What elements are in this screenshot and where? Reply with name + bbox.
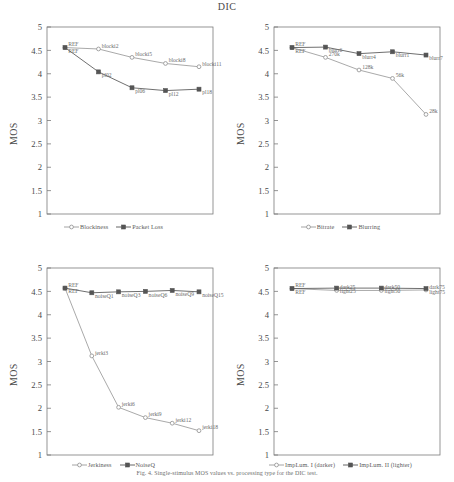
legend-circle-marker-icon (64, 223, 79, 231)
legend-circle-marker-icon (72, 461, 87, 469)
point-label: jerki12 (174, 417, 191, 423)
point-label: 28k (429, 108, 438, 114)
y-tick-label: 1 (38, 450, 42, 460)
y-tick-label: 2.5 (31, 380, 42, 390)
legend-bottom-right: ImpLum. I (darker)ImpLum. II (lighter) (227, 460, 454, 469)
legend-square-marker-icon (120, 461, 135, 469)
point-label: REF (295, 48, 305, 54)
legend-item-noiseq[interactable]: NoiseQ (120, 460, 156, 469)
y-tick-label: 4 (38, 310, 43, 320)
figure-caption: Fig. 4. Single-stimulus MOS values vs. p… (0, 470, 454, 476)
point-label: REF (68, 41, 78, 47)
point-label: blurr4 (362, 54, 376, 60)
legend-label: ImpLum. II (lighter) (359, 461, 412, 468)
y-tick-label: 4.5 (31, 46, 42, 56)
point-label: noiseQ1 (95, 293, 114, 299)
y-tick-label: 5 (265, 263, 269, 273)
legend-item-bitrate[interactable]: Bitrate (301, 222, 335, 231)
y-tick-label: 5 (265, 22, 269, 32)
legend-label: Packet Loss (132, 223, 163, 230)
y-tick-label: 3.5 (258, 92, 269, 102)
y-tick-label: 3 (265, 357, 269, 367)
legend-square-marker-icon (343, 461, 358, 469)
y-tick-label: 4 (265, 69, 270, 79)
y-tick-label: 3.5 (31, 92, 42, 102)
point-label: noiseQ3 (122, 292, 141, 298)
point-label: blocki8 (169, 57, 186, 63)
legend-label: Blockiness (80, 223, 108, 230)
y-tick-label: 1 (265, 209, 269, 219)
y-tick-label: 3.5 (31, 333, 42, 343)
y-tick-label: 1.5 (258, 427, 269, 437)
y-tick-label: 4.5 (31, 287, 42, 297)
point-label: pl02 (102, 72, 112, 78)
legend-item-blockiness[interactable]: Blockiness (64, 222, 108, 231)
y-tick-label: 1.5 (31, 427, 42, 437)
legend-item-blurring[interactable]: Blurring (342, 222, 380, 231)
legend-label: Bitrate (317, 223, 335, 230)
y-tick-label: 3 (38, 357, 42, 367)
y-tick-label: 4 (265, 310, 270, 320)
point-label: noiseQ6 (149, 292, 168, 298)
series-jerkiness: REFjerki3jerki6jerki9jerki12jerki18 (63, 282, 218, 433)
y-tick-label: 1.5 (258, 186, 269, 196)
y-tick-label: 3.5 (258, 333, 269, 343)
legend-top-left: BlockinessPacket Loss (0, 222, 227, 231)
point-label: REF (68, 282, 78, 288)
y-tick-label: 2.5 (258, 380, 269, 390)
legend-item-packet-loss[interactable]: Packet Loss (116, 222, 163, 231)
series-blurring: REFblurr6blurr4blurr1blurr7 (290, 45, 443, 61)
point-label: blocki5 (135, 51, 152, 57)
point-label: REF (295, 41, 305, 47)
point-label: jerki18 (201, 424, 218, 430)
point-label: blurr6 (329, 47, 343, 53)
point-label: jerki6 (121, 401, 135, 407)
legend-label: Jerkiness (88, 461, 112, 468)
point-label: REF (68, 48, 78, 54)
y-tick-label: 2 (265, 162, 269, 172)
point-label: REF (295, 289, 305, 295)
point-label: light75 (429, 289, 445, 295)
legend-top-right: BitrateBlurring (227, 222, 454, 231)
y-tick-label: 1.5 (31, 186, 42, 196)
y-tick-label: 5 (38, 22, 42, 32)
y-tick-label: 4.5 (258, 46, 269, 56)
point-label: blurr1 (396, 52, 410, 58)
series-blockiness: REFblocki2blocki5blocki8blocki11 (63, 41, 222, 68)
point-label: blurr7 (429, 55, 443, 61)
point-label: noiseQ15 (202, 292, 224, 298)
plot-area-bottom-right: 11.522.533.544.55REFdark25dark50dark75RE… (227, 241, 454, 466)
y-tick-label: 2 (38, 403, 42, 413)
chart-panel-top-left: MOS 11.522.533.544.55REFblocki2blocki5bl… (0, 0, 227, 241)
legend-item-implum-ii-lighter[interactable]: ImpLum. II (lighter) (343, 460, 412, 469)
point-label: jerki9 (148, 411, 162, 417)
legend-item-implum-i-darker[interactable]: ImpLum. I (darker) (269, 460, 335, 469)
point-label: light25 (340, 288, 356, 294)
legend-square-marker-icon (116, 223, 131, 231)
point-label: pl18 (202, 89, 212, 95)
series-noiseq: REFnoiseQ1noiseQ3noiseQ6noiseQ9noiseQ15 (63, 286, 224, 299)
y-tick-label: 2 (38, 162, 42, 172)
y-tick-label: 3 (38, 116, 42, 126)
chart-panel-bottom-left: MOS 11.522.533.544.55REFjerki3jerki6jerk… (0, 241, 227, 482)
y-tick-label: 1 (265, 450, 269, 460)
point-label: jerki3 (94, 350, 108, 356)
point-label: blocki11 (202, 61, 222, 67)
point-label: light50 (385, 288, 401, 294)
y-tick-label: 4.5 (258, 287, 269, 297)
legend-item-jerkiness[interactable]: Jerkiness (72, 460, 112, 469)
point-label: 56k (396, 72, 405, 78)
legend-label: NoiseQ (136, 461, 156, 468)
figure-dic-mos: DIC MOS 11.522.533.544.55REFblocki2block… (0, 0, 454, 482)
point-label: blocki2 (102, 43, 119, 49)
legend-label: Blurring (358, 223, 380, 230)
legend-square-marker-icon (342, 223, 357, 231)
y-tick-label: 1 (38, 209, 42, 219)
point-label: 128k (362, 64, 373, 70)
series-bitrate: REF270k128k56k28k (290, 41, 438, 116)
point-label: REF (295, 282, 305, 288)
chart-panel-top-right: MOS 11.522.533.544.55REF270k128k56k28kRE… (227, 0, 454, 241)
point-label: noiseQ9 (175, 291, 194, 297)
y-tick-label: 3 (265, 116, 269, 126)
y-tick-label: 5 (38, 263, 42, 273)
